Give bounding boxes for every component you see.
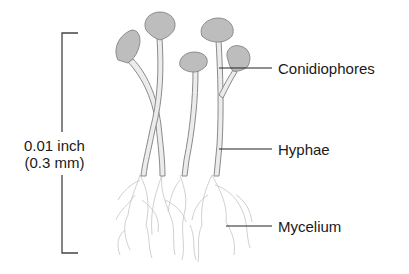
label-mycelium: Mycelium	[278, 218, 341, 235]
mycelium-threads	[116, 175, 252, 262]
label-hyphae: Hyphae	[278, 141, 330, 158]
scale-label: 0.01 inch (0.3 mm)	[24, 136, 85, 172]
mold-diagram: 0.01 inch (0.3 mm) Conidiophores Hyphae …	[0, 0, 409, 274]
scale-inch: 0.01 inch	[24, 137, 85, 154]
leader-lines	[219, 68, 272, 226]
scale-mm: (0.3 mm)	[24, 154, 85, 171]
label-conidiophores: Conidiophores	[278, 60, 375, 77]
